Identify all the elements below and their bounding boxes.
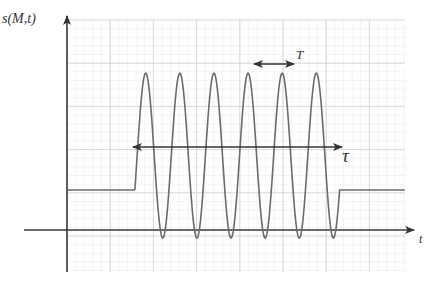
y-axis-label: s(M,t) xyxy=(2,11,36,27)
wave-packet-diagram: s(M,t) t T τ xyxy=(0,0,443,286)
period-label: T xyxy=(296,47,304,62)
duration-label: τ xyxy=(342,145,350,166)
background-grid xyxy=(67,20,405,272)
x-axis-label: t xyxy=(419,232,423,246)
